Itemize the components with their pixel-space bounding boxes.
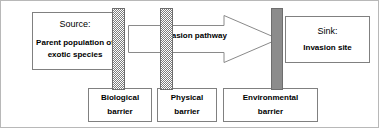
invasion-pathway-diagram: Source: Parent population of exotic spec… [0,0,381,130]
biological-barrier-label-line-1: Biological [101,94,139,102]
invasion-pathway-label: Invasion pathway [128,31,259,40]
biological-barrier-bar [112,8,125,90]
source-box: Source: Parent population of exotic spec… [32,12,118,70]
sink-heading: Sink: [317,27,337,36]
environmental-barrier-label-line-2: barrier [258,108,283,116]
biological-barrier-label-box: Biological barrier [88,88,152,122]
sink-box: Sink: Invasion site [285,16,370,63]
environmental-barrier-label-box: Environmental barrier [223,88,318,122]
environmental-barrier-label-line-1: Environmental [243,94,299,102]
physical-barrier-bar [160,8,173,90]
physical-barrier-label-line-2: barrier [174,108,199,116]
physical-barrier-label-line-1: Physical [171,94,203,102]
source-description-line-2: exotic species [48,49,103,61]
source-heading: Source: [59,20,90,29]
biological-barrier-label-line-2: barrier [107,108,132,116]
physical-barrier-label-box: Physical barrier [157,88,217,122]
environmental-barrier-bar [271,8,283,90]
source-description-line-1: Parent population of [36,37,114,49]
sink-description-line-1: Invasion site [303,44,351,52]
